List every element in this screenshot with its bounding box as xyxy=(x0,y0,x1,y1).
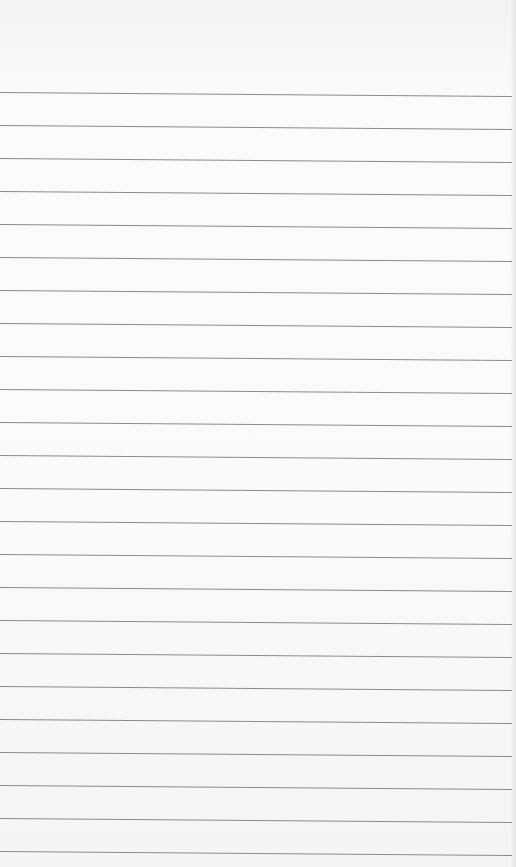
ruled-line xyxy=(0,620,512,625)
ruled-line xyxy=(0,587,512,592)
ruled-line xyxy=(0,125,512,130)
ruled-line xyxy=(0,752,512,757)
ruled-line xyxy=(0,257,512,262)
ruled-line xyxy=(0,785,512,790)
ruled-line xyxy=(0,554,512,559)
ruled-line xyxy=(0,818,512,823)
ruled-line xyxy=(0,356,512,361)
ruled-line xyxy=(0,92,512,97)
ruled-line xyxy=(0,224,512,229)
ruled-line xyxy=(0,158,512,163)
ruled-line xyxy=(0,686,512,691)
ruled-line xyxy=(0,323,512,328)
lined-paper-sheet xyxy=(0,0,516,867)
paper-edge-shadow xyxy=(510,0,516,867)
ruled-line xyxy=(0,290,512,295)
ruled-line xyxy=(0,422,512,427)
ruled-line xyxy=(0,521,512,526)
ruled-line xyxy=(0,851,512,856)
ruled-line xyxy=(0,191,512,196)
ruled-line xyxy=(0,455,512,460)
ruled-line xyxy=(0,488,512,493)
ruled-line xyxy=(0,389,512,394)
ruled-line xyxy=(0,653,512,658)
ruled-line xyxy=(0,719,512,724)
